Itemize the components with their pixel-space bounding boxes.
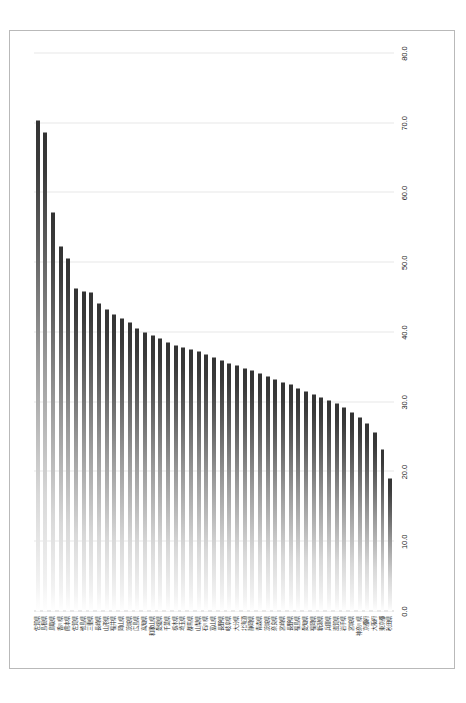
category-label: 宮城県 bbox=[349, 615, 354, 630]
category-label: 大阪府 bbox=[372, 615, 377, 630]
bar bbox=[304, 391, 308, 611]
bar-row: 香川県 bbox=[59, 53, 63, 611]
category-label: 千葉県 bbox=[165, 615, 170, 630]
bar-row: 宮城県 bbox=[350, 53, 354, 611]
tick-label: 40.0 bbox=[400, 325, 409, 340]
bar-row: 栃木県 bbox=[174, 53, 178, 611]
bar-row: 福井県 bbox=[112, 53, 116, 611]
category-label: 東京都 bbox=[380, 615, 385, 630]
bar-row: 鳥取県 bbox=[51, 53, 55, 611]
category-label: 兵庫県 bbox=[326, 615, 331, 630]
category-label: 熊本県 bbox=[66, 615, 71, 630]
category-label: 和歌山県 bbox=[150, 615, 155, 635]
bar bbox=[59, 246, 63, 611]
bar-row: 大阪府 bbox=[373, 53, 377, 611]
category-label: 愛知県 bbox=[303, 615, 308, 630]
bar bbox=[266, 376, 270, 611]
bar-row: 大分県 bbox=[235, 53, 239, 611]
bar-row: 山梨県 bbox=[197, 53, 201, 611]
bar bbox=[128, 322, 132, 611]
bar bbox=[220, 360, 224, 611]
category-label: 佐賀県 bbox=[73, 615, 78, 630]
bar-row: 長崎県 bbox=[97, 53, 101, 611]
bar-row: 石川県 bbox=[204, 53, 208, 611]
bar bbox=[381, 449, 385, 611]
bar-row: 佐賀県 bbox=[74, 53, 78, 611]
category-label: 長崎県 bbox=[96, 615, 101, 630]
tick-label: 80.0 bbox=[400, 46, 409, 61]
bar bbox=[273, 379, 277, 611]
bar-row: 群馬県 bbox=[189, 53, 193, 611]
bar-row: 千葉県 bbox=[166, 53, 170, 611]
bar bbox=[197, 351, 201, 611]
bar-row: 広島県 bbox=[135, 53, 139, 611]
bar bbox=[227, 363, 231, 611]
category-label: 滋賀県 bbox=[334, 615, 339, 630]
category-label: 神奈川県 bbox=[357, 615, 362, 635]
bar-row: 高知県 bbox=[143, 53, 147, 611]
bar bbox=[358, 417, 362, 611]
bar bbox=[105, 309, 109, 611]
bar bbox=[281, 382, 285, 611]
bar-row: 岡山県 bbox=[120, 53, 124, 611]
tick-label: 30.0 bbox=[400, 394, 409, 409]
category-label: 新潟県 bbox=[319, 615, 324, 630]
bar bbox=[120, 318, 124, 611]
category-label: 福島県 bbox=[296, 615, 301, 630]
bar-row: 愛知県 bbox=[304, 53, 308, 611]
category-label: 岩手県 bbox=[342, 615, 347, 630]
bar-row: 山形県 bbox=[105, 53, 109, 611]
bar bbox=[74, 288, 78, 611]
bar-row: 滋賀県 bbox=[335, 53, 339, 611]
category-label: 長野県 bbox=[288, 615, 293, 630]
bar-row: 徳島県 bbox=[82, 53, 86, 611]
bar-row: 島根県 bbox=[43, 53, 47, 611]
bar-row: 三重県 bbox=[89, 53, 93, 611]
bar-row: 神奈川県 bbox=[358, 53, 362, 611]
bar-row: 北海道 bbox=[243, 53, 247, 611]
category-label: 愛媛県 bbox=[158, 615, 163, 630]
bar-row: 秋田県 bbox=[388, 53, 392, 611]
bar bbox=[36, 120, 40, 611]
bar-row: 佐賀県 bbox=[36, 53, 40, 611]
category-label: 福井県 bbox=[112, 615, 117, 630]
bar bbox=[335, 403, 339, 611]
bar bbox=[158, 338, 162, 611]
bar bbox=[350, 412, 354, 611]
bar-row: 福島県 bbox=[296, 53, 300, 611]
bar bbox=[296, 388, 300, 611]
bar bbox=[365, 423, 369, 611]
bar bbox=[212, 357, 216, 611]
bar bbox=[51, 212, 55, 611]
category-label: 三重県 bbox=[89, 615, 94, 630]
category-label: 山形県 bbox=[104, 615, 109, 630]
bar-row: 新潟県 bbox=[319, 53, 323, 611]
category-label: 岡山県 bbox=[119, 615, 124, 630]
tick-label: 10.0 bbox=[400, 534, 409, 549]
bar bbox=[342, 407, 346, 611]
bar-row: 長野県 bbox=[220, 53, 224, 611]
bar-row: 岐阜県 bbox=[227, 53, 231, 611]
category-label: 高知県 bbox=[142, 615, 147, 630]
category-label: 北海道 bbox=[242, 615, 247, 630]
bar bbox=[235, 365, 239, 611]
bar bbox=[181, 347, 185, 611]
bar bbox=[97, 303, 101, 611]
bar bbox=[143, 332, 147, 611]
bar bbox=[43, 132, 47, 611]
bar-row: 埼玉県 bbox=[181, 53, 185, 611]
category-label: 青森県 bbox=[257, 615, 262, 630]
bar-series: 佐賀県島根県鳥取県香川県熊本県佐賀県徳島県三重県長崎県山形県福井県岡山県茨城県広… bbox=[34, 53, 394, 611]
bar-row: 東京都 bbox=[381, 53, 385, 611]
bar bbox=[204, 354, 208, 611]
bar-row: 茨城県 bbox=[128, 53, 132, 611]
bar-row: 茨城県 bbox=[266, 53, 270, 611]
bar bbox=[388, 478, 392, 611]
tick-label: 70.0 bbox=[400, 115, 409, 130]
category-label: 香川県 bbox=[58, 615, 63, 630]
bar bbox=[319, 397, 323, 611]
bar bbox=[243, 368, 247, 611]
bar bbox=[151, 336, 155, 612]
category-label: 宮崎県 bbox=[280, 615, 285, 630]
category-label: 岐阜県 bbox=[227, 615, 232, 630]
